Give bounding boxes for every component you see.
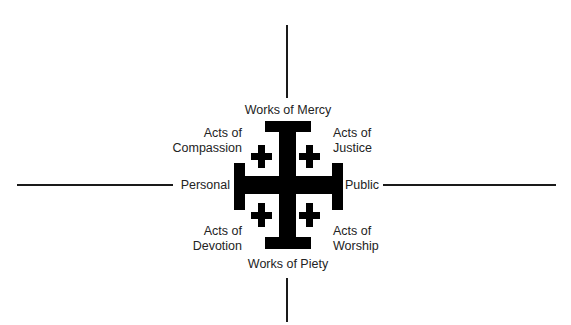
label-works-of-piety: Works of Piety [228, 257, 348, 272]
axis-line-right [383, 184, 556, 186]
cross-left-bar [234, 163, 245, 210]
label-acts-of-compassion: Acts of Compassion [160, 126, 242, 156]
label-line: Acts of [333, 126, 413, 141]
cross-right-bar [332, 163, 343, 210]
label-acts-of-devotion: Acts of Devotion [160, 224, 242, 254]
label-public: Public [345, 178, 405, 193]
label-line: Justice [333, 141, 413, 156]
cross-horizontal-arm [234, 176, 342, 194]
label-line: Acts of [160, 224, 242, 239]
cross-top-bar [265, 121, 311, 132]
cross-bottom-bar [265, 237, 311, 249]
axis-line-bottom [286, 278, 288, 322]
label-line: Compassion [160, 141, 242, 156]
label-line: Devotion [160, 239, 242, 254]
label-works-of-mercy: Works of Mercy [228, 103, 348, 118]
label-personal: Personal [150, 178, 230, 193]
label-acts-of-worship: Acts of Worship [333, 224, 413, 254]
label-line: Worship [333, 239, 413, 254]
diagram-canvas: Works of Mercy Works of Piety Personal P… [0, 0, 571, 325]
axis-line-top [286, 25, 288, 98]
label-line: Acts of [333, 224, 413, 239]
label-line: Acts of [160, 126, 242, 141]
label-acts-of-justice: Acts of Justice [333, 126, 413, 156]
